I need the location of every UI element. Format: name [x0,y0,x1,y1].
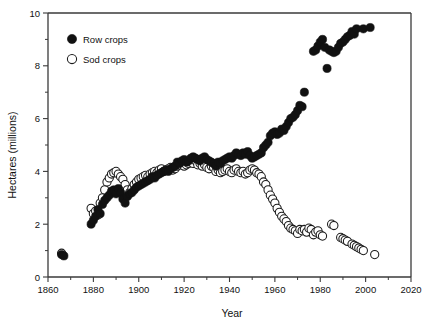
x-tick-label: 1940 [219,284,240,295]
data-point-row-crops [298,103,306,111]
y-tick-label: 10 [29,8,40,19]
y-axis-ticks [43,13,48,277]
x-axis-title: Year [221,307,243,319]
y-tick-label: 8 [35,60,40,71]
data-point-row-crops [96,210,104,218]
chart-legend: Row cropsSod crops [67,34,128,65]
y-tick-label: 4 [35,166,40,177]
data-point-sod-crops [330,221,338,229]
x-tick-label: 1920 [174,284,195,295]
y-axis-tick-labels: 0246810 [29,8,40,283]
series-sod-crops [58,157,379,259]
x-tick-label: 1900 [128,284,149,295]
data-point-row-crops [323,64,331,72]
y-tick-label: 6 [35,113,40,124]
data-point-row-crops [366,23,374,31]
x-axis-ticks [48,277,411,282]
chart-container: 186018801900192019401960198020002020 024… [0,0,434,327]
x-axis-tick-labels: 186018801900192019401960198020002020 [37,284,421,295]
x-tick-label: 1860 [37,284,58,295]
plot-frame [48,13,411,277]
data-point-row-crops [300,88,308,96]
x-tick-label: 2020 [400,284,421,295]
legend-label: Sod crops [83,54,126,65]
legend-label: Row crops [83,34,128,45]
data-point-sod-crops [371,250,379,258]
legend-marker-sod-crops [67,54,76,63]
x-tick-label: 1980 [310,284,331,295]
data-point-sod-crops [359,247,367,255]
scatter-plot: 186018801900192019401960198020002020 024… [0,0,434,327]
x-tick-label: 1880 [83,284,104,295]
legend-marker-row-crops [67,34,76,43]
x-tick-label: 1960 [264,284,285,295]
y-tick-label: 2 [35,219,40,230]
data-point-row-crops [60,252,68,260]
data-point-row-crops [318,35,326,43]
data-point-sod-crops [318,232,326,240]
y-axis-title: Hectares (millions) [6,112,18,199]
y-tick-label: 0 [35,272,40,283]
x-tick-label: 2000 [355,284,376,295]
